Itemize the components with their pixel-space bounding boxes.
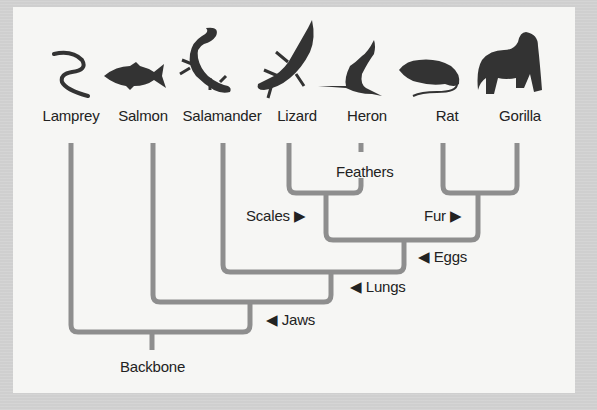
lizard-icon <box>252 18 322 102</box>
taxon-label-lamprey: Lamprey <box>43 107 100 124</box>
trait-backbone: Backbone <box>120 358 185 375</box>
salmon-icon <box>102 60 168 92</box>
taxon-label-rat: Rat <box>436 107 459 124</box>
salamander-icon <box>176 24 236 100</box>
trait-scales: Scales ▶ <box>246 207 306 225</box>
trait-lungs: ◀ Lungs <box>350 278 406 296</box>
taxon-label-salmon: Salmon <box>118 107 168 124</box>
trait-feathers: Feathers <box>336 163 394 180</box>
taxon-label-lizard: Lizard <box>277 107 317 124</box>
trait-fur: Fur ▶ <box>424 207 462 225</box>
trait-eggs: ◀ Eggs <box>418 248 467 266</box>
taxon-label-heron: Heron <box>347 107 387 124</box>
taxon-label-salamander: Salamander <box>183 107 262 124</box>
trait-jaws: ◀ Jaws <box>266 311 315 329</box>
taxon-label-gorilla: Gorilla <box>499 107 541 124</box>
heron-icon <box>316 38 390 100</box>
rat-icon <box>397 54 463 98</box>
lamprey-icon <box>52 50 92 100</box>
gorilla-icon <box>476 30 544 98</box>
